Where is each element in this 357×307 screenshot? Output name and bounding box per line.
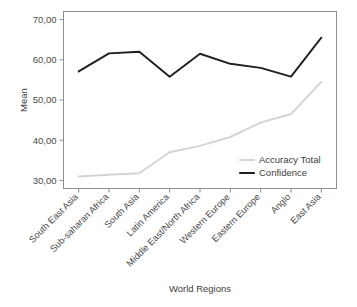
legend-label: Confidence <box>259 167 307 178</box>
y-tick-label: 70,00 <box>33 14 57 25</box>
y-axis-title: Mean <box>18 88 29 112</box>
y-tick-label: 30,00 <box>33 175 57 186</box>
x-category-label: East Asia <box>289 191 324 226</box>
x-category-label: South East Asia <box>27 191 81 245</box>
x-axis-title: World Regions <box>169 283 231 294</box>
y-axis-tick-labels: 30,0040,0050,0060,0070,00 <box>33 14 57 186</box>
chart-container: 30,0040,0050,0060,0070,00 South East Asi… <box>0 0 357 307</box>
line-chart: 30,0040,0050,0060,0070,00 South East Asi… <box>0 0 357 307</box>
y-tick-label: 40,00 <box>33 135 57 146</box>
legend-label: Accuracy Total <box>259 154 321 165</box>
y-axis-ticks <box>60 20 64 181</box>
x-axis-category-labels: South East AsiaSub-saharan AfricaSouth A… <box>27 191 323 268</box>
x-category-label: Anglo <box>269 192 293 216</box>
y-tick-label: 50,00 <box>33 94 57 105</box>
y-tick-label: 60,00 <box>33 54 57 65</box>
